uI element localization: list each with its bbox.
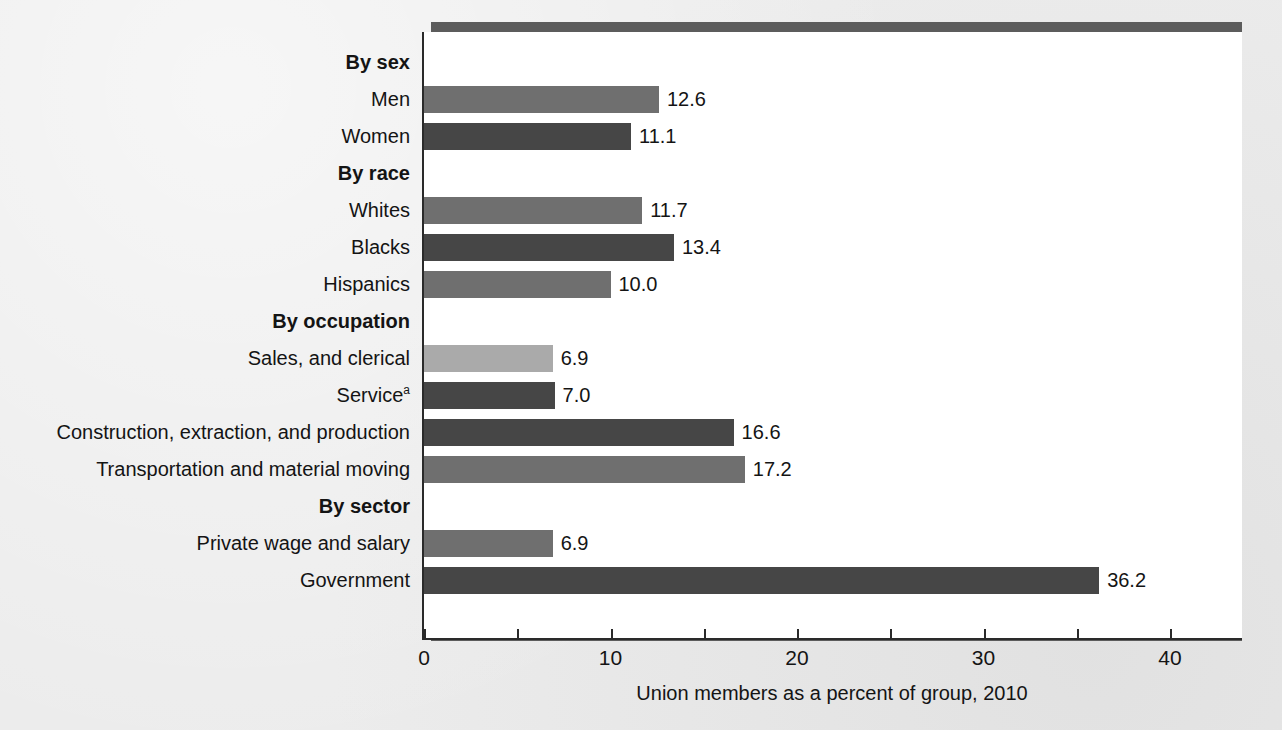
x-axis-tick: [611, 629, 613, 640]
x-axis-title: Union members as a percent of group, 201…: [422, 682, 1242, 705]
bar-row: Servicea7.0: [0, 377, 1282, 414]
x-axis-tick: [1170, 629, 1172, 640]
x-axis-tick: [984, 629, 986, 640]
bar: [424, 271, 611, 298]
bar-value-label: 6.9: [561, 525, 589, 562]
bar-value-label: 7.0: [563, 377, 591, 414]
bar-value-label: 36.2: [1107, 562, 1146, 599]
bar: [424, 234, 674, 261]
bar: [424, 345, 553, 372]
category-label: Government: [300, 562, 410, 599]
x-axis-tick: [890, 629, 892, 640]
bar-row: Sales, and clerical6.9: [0, 340, 1282, 377]
bar: [424, 456, 745, 483]
bar-row: Women11.1: [0, 118, 1282, 155]
x-axis: Union members as a percent of group, 201…: [422, 640, 1242, 730]
category-label: Construction, extraction, and production: [56, 414, 410, 451]
x-axis-tick: [704, 629, 706, 640]
bar-value-label: 16.6: [742, 414, 781, 451]
group-header-label: By race: [338, 155, 410, 192]
category-label: Blacks: [351, 229, 410, 266]
x-axis-tick-label: 40: [1158, 646, 1181, 670]
chart-rows: By sexMen12.6Women11.1By raceWhites11.7B…: [0, 32, 1282, 602]
bar-row: Government36.2: [0, 562, 1282, 599]
group-header-row: By race: [0, 155, 1282, 192]
bar: [424, 530, 553, 557]
category-label: Private wage and salary: [197, 525, 410, 562]
bar-row: Men12.6: [0, 81, 1282, 118]
group-header-label: By sex: [346, 44, 411, 81]
category-label: Servicea: [337, 377, 410, 414]
group-header-row: By occupation: [0, 303, 1282, 340]
bar-value-label: 12.6: [667, 81, 706, 118]
x-axis-tick: [797, 629, 799, 640]
x-axis-tick: [424, 629, 426, 640]
bar-row: Hispanics10.0: [0, 266, 1282, 303]
x-axis-tick-label: 0: [418, 646, 430, 670]
category-label: Whites: [349, 192, 410, 229]
bar: [424, 86, 659, 113]
group-header-label: By occupation: [272, 303, 410, 340]
bar-row: Private wage and salary6.9: [0, 525, 1282, 562]
category-label: Transportation and material moving: [96, 451, 410, 488]
union-membership-bar-chart: By sexMen12.6Women11.1By raceWhites11.7B…: [0, 0, 1282, 730]
bar-row: Blacks13.4: [0, 229, 1282, 266]
group-header-row: By sector: [0, 488, 1282, 525]
bar-value-label: 13.4: [682, 229, 721, 266]
category-label: Men: [371, 81, 410, 118]
group-header-row: By sex: [0, 44, 1282, 81]
bar-row: Whites11.7: [0, 192, 1282, 229]
bar: [424, 197, 642, 224]
bar-value-label: 6.9: [561, 340, 589, 377]
bar-row: Construction, extraction, and production…: [0, 414, 1282, 451]
bar-value-label: 10.0: [619, 266, 658, 303]
bar-value-label: 17.2: [753, 451, 792, 488]
bar-row: Transportation and material moving17.2: [0, 451, 1282, 488]
bar: [424, 382, 555, 409]
footnote-marker: a: [403, 383, 410, 397]
bar: [424, 123, 631, 150]
x-axis-tick-label: 20: [785, 646, 808, 670]
bar-value-label: 11.1: [639, 118, 676, 155]
bar-value-label: 11.7: [650, 192, 687, 229]
x-axis-tick-label: 10: [599, 646, 622, 670]
group-header-label: By sector: [319, 488, 410, 525]
bar: [424, 419, 734, 446]
bar: [424, 567, 1099, 594]
x-axis-tick: [517, 629, 519, 640]
category-label: Hispanics: [323, 266, 410, 303]
category-label: Women: [341, 118, 410, 155]
x-axis-tick-label: 30: [972, 646, 995, 670]
x-axis-tick: [1077, 629, 1079, 640]
category-label: Sales, and clerical: [248, 340, 410, 377]
